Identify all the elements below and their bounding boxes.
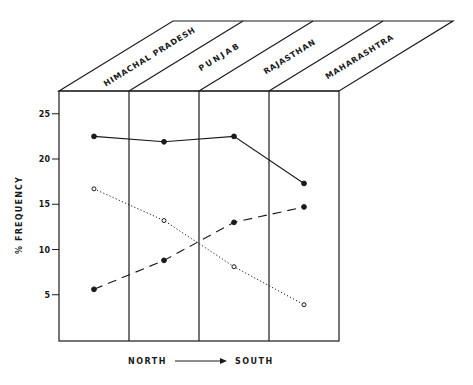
data-point xyxy=(92,187,96,191)
data-point xyxy=(232,265,236,269)
y-tick-label: 5 xyxy=(44,291,50,300)
y-tick-label: 10 xyxy=(39,246,51,255)
data-point xyxy=(302,303,306,307)
chart-box xyxy=(59,21,453,341)
panel-label: MAHARASHTRA xyxy=(324,33,396,82)
y-tick-label: 25 xyxy=(39,110,51,119)
data-point xyxy=(302,205,307,210)
panel-label: RAJASTHAN xyxy=(262,37,317,76)
y-tick-label: 20 xyxy=(39,155,51,164)
south-label: SOUTH xyxy=(235,357,274,366)
data-point xyxy=(162,219,166,223)
data-point xyxy=(162,139,167,144)
y-tick-label: 15 xyxy=(39,200,51,209)
panel-labels: HIMACHAL PRADESHPUNJABRAJASTHANMAHARASHT… xyxy=(102,25,395,88)
data-point xyxy=(92,134,97,139)
y-axis-label: % FREQUENCY xyxy=(15,176,24,254)
north-label: NORTH xyxy=(128,357,167,366)
data-point xyxy=(162,258,167,263)
x-axis-direction: NORTH SOUTH xyxy=(128,357,274,366)
y-axis: 510152025 xyxy=(39,110,59,300)
chart: HIMACHAL PRADESHPUNJABRAJASTHANMAHARASHT… xyxy=(0,0,473,385)
data-point xyxy=(302,181,307,186)
arrow-icon xyxy=(220,358,227,364)
data-point xyxy=(232,220,237,225)
data-point xyxy=(92,287,97,292)
data-point xyxy=(232,134,237,139)
